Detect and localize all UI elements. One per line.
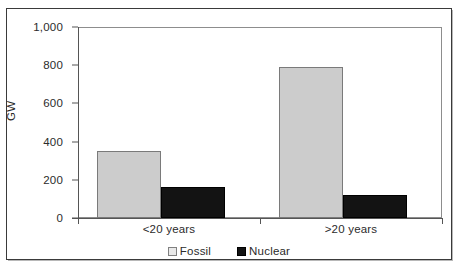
bar-nuclear-0 — [161, 187, 225, 218]
x-axis-tick-mark — [78, 218, 79, 224]
x-axis-line — [72, 218, 443, 219]
y-axis-tick-label: 400 — [7, 136, 63, 148]
bar-chart-figure: GW 02004006008001,000 <20 years>20 years… — [0, 0, 458, 267]
bar-fossil-1 — [279, 67, 343, 218]
legend-entry-fossil[interactable]: Fossil — [168, 245, 211, 257]
bar-nuclear-1 — [343, 195, 407, 218]
x-axis-tick-mark — [260, 218, 261, 224]
y-axis-tick-label: 1,000 — [7, 21, 63, 33]
nuclear-swatch-icon — [237, 247, 246, 256]
fossil-swatch-icon — [168, 247, 177, 256]
y-axis-tick-label: 600 — [7, 97, 63, 109]
y-axis-tick-label: 800 — [7, 59, 63, 71]
x-axis-category-label: >20 years — [325, 223, 378, 235]
x-axis-category-label: <20 years — [143, 223, 196, 235]
bar-fossil-0 — [97, 151, 161, 218]
legend-entry-nuclear[interactable]: Nuclear — [237, 245, 290, 257]
legend-label: Nuclear — [249, 245, 290, 257]
chart-outer-frame: GW 02004006008001,000 <20 years>20 years… — [6, 8, 452, 260]
chart-legend: FossilNuclear — [7, 245, 451, 257]
y-axis-tick-label: 200 — [7, 174, 63, 186]
legend-label: Fossil — [180, 245, 211, 257]
y-axis-line — [78, 27, 79, 219]
y-axis-tick-label: 0 — [7, 212, 63, 224]
x-axis-tick-mark — [442, 218, 443, 224]
